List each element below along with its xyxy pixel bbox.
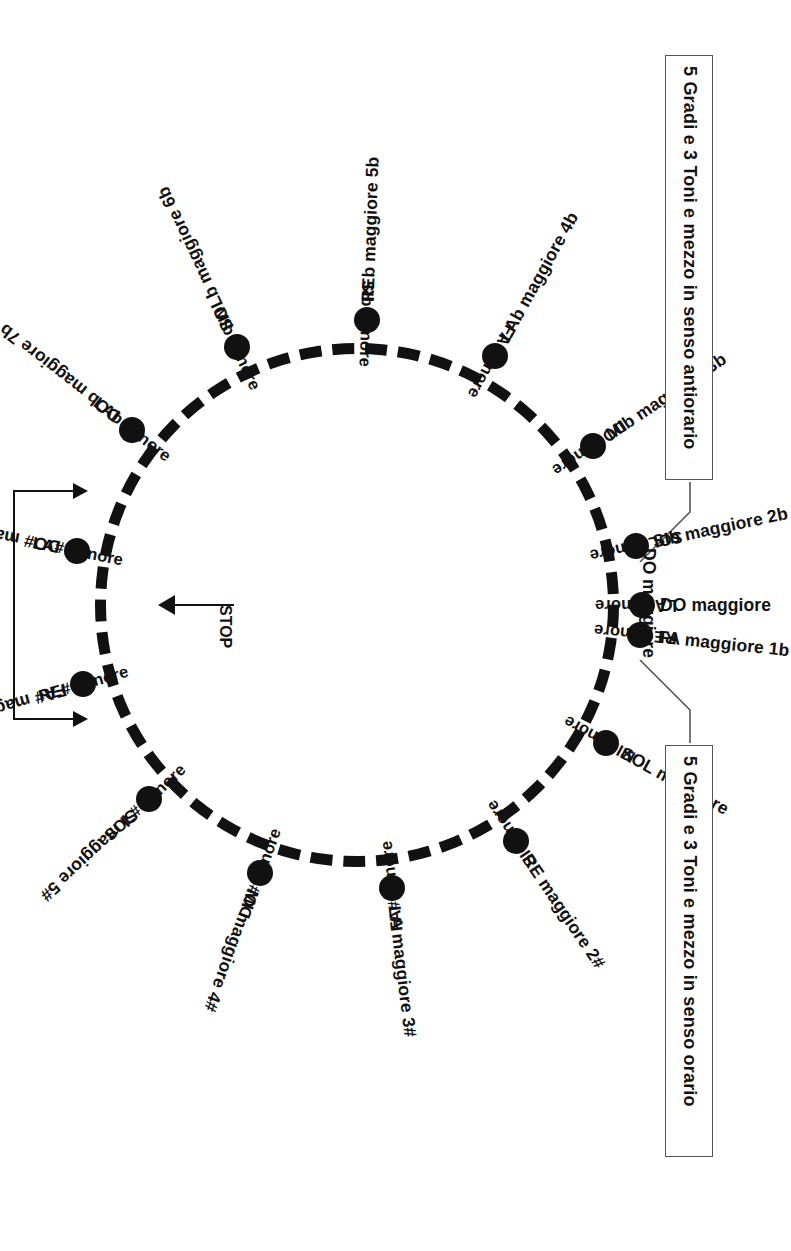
bracket-top-line — [13, 490, 75, 492]
bracket-top-arrow-icon — [73, 483, 88, 499]
minor-key-label: SIb minore — [356, 281, 378, 368]
note-box-counterclockwise: 5 Gradi e 3 Toni e mezzo in senso antior… — [665, 55, 713, 480]
major-key-label: RE maggiore 2# — [518, 850, 610, 973]
bracket-bottom-line — [13, 718, 75, 720]
note-box-clockwise: 5 Gradi e 3 Toni e mezzo in senso orario — [665, 745, 713, 1157]
leader-line-cw — [640, 660, 690, 743]
note-box-clockwise-text: 5 Gradi e 3 Toni e mezzo in senso orario — [679, 756, 700, 1107]
stop-arrow-head-icon — [158, 595, 175, 615]
note-box-counterclockwise-text: 5 Gradi e 3 Toni e mezzo in senso antior… — [679, 66, 700, 450]
center-key-label: DO maggiore — [638, 548, 659, 658]
stop-label: STOP — [216, 605, 234, 648]
bracket-bottom-arrow-icon — [73, 711, 88, 727]
minor-key-label: SOL# minore — [101, 760, 190, 845]
stop-marker: STOP — [150, 585, 280, 625]
enharmonic-equivalence-bracket — [13, 490, 89, 720]
bracket-vertical-line — [13, 490, 15, 720]
minor-key-label: LA minore — [595, 596, 677, 615]
